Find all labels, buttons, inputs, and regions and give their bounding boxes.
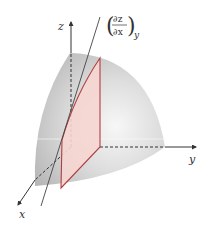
partial-derivative-diagram: z y x ( ∂z ∂x ) y [0, 0, 210, 226]
x-axis-label: x [19, 208, 26, 221]
x-axis [18, 180, 35, 205]
partial-derivative-label: ( ∂z ∂x ) y [106, 13, 140, 40]
derivative-subscript: y [133, 30, 140, 40]
derivative-numerator: ∂z [113, 14, 123, 24]
y-axis-label: y [188, 153, 196, 166]
z-axis-label: z [57, 20, 64, 33]
derivative-denominator: ∂x [113, 27, 123, 37]
